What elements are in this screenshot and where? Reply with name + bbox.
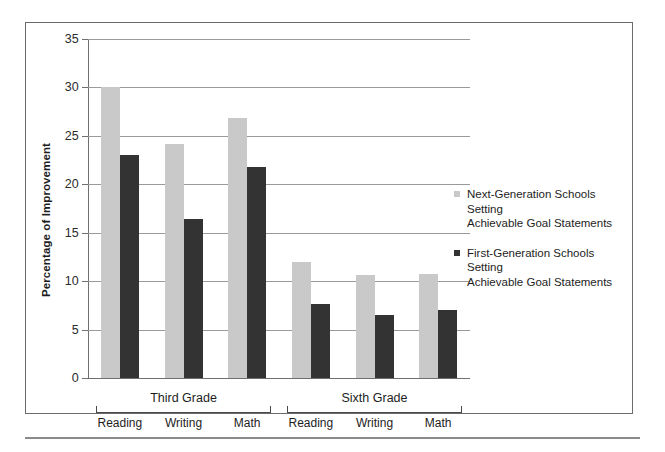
bar-first-generation-2: [247, 167, 266, 378]
y-tick-label-30: 30: [65, 80, 79, 94]
bar-next-generation-3: [292, 262, 311, 378]
legend-entry-0: Next-Generation Schools SettingAchievabl…: [454, 187, 629, 231]
chart-legend: Next-Generation Schools SettingAchievabl…: [454, 187, 629, 304]
y-tick-label-5: 5: [72, 323, 79, 337]
gridline-5: [88, 330, 470, 331]
category-label-1-0: Reading: [288, 416, 333, 430]
legend-label-line1-1: First-Generation Schools Setting: [467, 247, 594, 274]
bar-next-generation-5: [419, 274, 438, 378]
y-tick-10: [82, 281, 88, 282]
y-tick-0: [82, 378, 88, 379]
y-tick-label-35: 35: [65, 32, 79, 46]
y-tick-label-25: 25: [65, 129, 79, 143]
gridline-15: [88, 233, 470, 234]
legend-entry-1: First-Generation Schools SettingAchievab…: [454, 246, 629, 290]
y-tick-label-15: 15: [65, 226, 79, 240]
legend-label-line1-0: Next-Generation Schools Setting: [467, 188, 595, 215]
bar-next-generation-4: [356, 275, 375, 378]
gridline-25: [88, 136, 470, 137]
legend-swatch-light: [454, 191, 460, 197]
y-tick-15: [82, 233, 88, 234]
group-label-0: Third Grade: [150, 391, 217, 405]
legend-swatch-dark: [454, 250, 460, 256]
y-tick-label-0: 0: [72, 371, 79, 385]
bar-next-generation-1: [165, 144, 184, 378]
category-label-1-1: Writing: [356, 416, 393, 430]
gridline-10: [88, 281, 470, 282]
y-tick-label-20: 20: [65, 177, 79, 191]
y-axis-line: [88, 39, 89, 379]
bar-first-generation-4: [375, 315, 394, 378]
bottom-divider: [25, 437, 640, 439]
bar-first-generation-0: [120, 155, 139, 378]
legend-label-line2-1: Achievable Goal Statements: [467, 275, 629, 290]
chart-frame: Percentage of Improvement 05101520253035…: [25, 22, 633, 414]
group-label-1: Sixth Grade: [341, 391, 407, 405]
y-tick-20: [82, 184, 88, 185]
bar-first-generation-5: [438, 310, 457, 378]
gridline-30: [88, 87, 470, 88]
group-bracket-0: [96, 406, 271, 413]
y-tick-5: [82, 330, 88, 331]
gridline-35: [88, 39, 470, 40]
bar-first-generation-1: [184, 219, 203, 378]
y-tick-35: [82, 39, 88, 40]
category-label-0-2: Math: [234, 416, 261, 430]
y-axis-title: Percentage of Improvement: [40, 143, 52, 297]
group-bracket-1: [287, 406, 462, 413]
gridline-20: [88, 184, 470, 185]
bar-next-generation-2: [228, 118, 247, 378]
legend-label-line2-0: Achievable Goal Statements: [467, 216, 629, 231]
y-tick-label-10: 10: [65, 274, 79, 288]
y-tick-25: [82, 136, 88, 137]
y-tick-30: [82, 87, 88, 88]
category-label-0-1: Writing: [165, 416, 202, 430]
x-axis-line: [88, 378, 470, 379]
category-label-1-2: Math: [425, 416, 452, 430]
bar-first-generation-3: [311, 304, 330, 378]
category-label-0-0: Reading: [97, 416, 142, 430]
bar-next-generation-0: [101, 87, 120, 378]
plot-area: 05101520253035: [88, 39, 470, 378]
